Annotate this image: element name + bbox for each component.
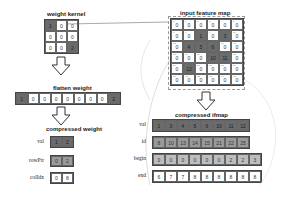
connector-lines — [0, 0, 287, 200]
